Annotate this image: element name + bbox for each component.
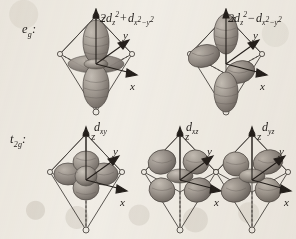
formula-dyz-sub: yz [268, 127, 274, 136]
t2g-row: t2g: dxy [0, 112, 296, 239]
formula-dxy: dxy [94, 120, 107, 136]
axis-label-y-dxy: y [112, 145, 118, 157]
tail-sup-b-text: 2 [150, 15, 154, 24]
formula-2dz2-minus-dx2y2: 2dz2−dx2−y2 [228, 10, 282, 27]
formula2-operator: − [247, 11, 256, 25]
formula-2dz2-plus-dx2y2: 2dz2+dx2−y2 [100, 10, 154, 27]
orbital-cell-2dz2-minus-dx2y2: 2dz2−dx2−y2 [182, 8, 282, 120]
axis-label-x-dyz: x [283, 196, 289, 208]
formula2-lead: 2d [228, 11, 240, 25]
t2g-subscript: 2g [14, 140, 22, 149]
formula-dxz-sub: xz [192, 127, 198, 136]
formula-lead: 2d [100, 11, 112, 25]
formula-tail-sub-a: x2−y2 [134, 18, 154, 27]
axis-label-x: x [129, 80, 135, 92]
t2g-set-label: t2g: [10, 132, 26, 149]
axis-label-y: y [122, 29, 128, 41]
formula-dyz: dyz [262, 120, 275, 136]
tail2-sup-b-text: 2 [278, 15, 282, 24]
orbital-cell-dyz: dyz [212, 118, 296, 236]
eg-set-label: eg: [22, 22, 36, 39]
t2g-colon: : [22, 132, 26, 146]
formula2-tail-sub-a: x2−y2 [262, 18, 282, 27]
formula-lead-sub: z [112, 18, 115, 27]
axis-label-x-2: x [259, 80, 265, 92]
orbital-lobes-dx2y2 [186, 14, 258, 112]
axis-label-y-dyz: y [278, 145, 284, 157]
formula-operator: + [119, 11, 128, 25]
axis-label-x-dxy: x [119, 196, 125, 208]
eg-colon: : [32, 22, 36, 36]
octahedron-diagram-dxy: z y x [42, 118, 138, 236]
formula-dxz: dxz [186, 120, 199, 136]
eg-row: eg: 2dz2+dx2−y2 [0, 0, 296, 120]
formula2-lead-sub: z [240, 18, 243, 27]
orbital-cell-dxy: dxy [42, 118, 138, 236]
octahedron-diagram-dyz: z y x [212, 118, 296, 236]
axis-label-y-2: y [252, 29, 258, 41]
orbital-cell-2dz2-plus-dx2y2: 2dz2+dx2−y2 [52, 8, 148, 120]
formula-dxy-sub: xy [100, 127, 107, 136]
